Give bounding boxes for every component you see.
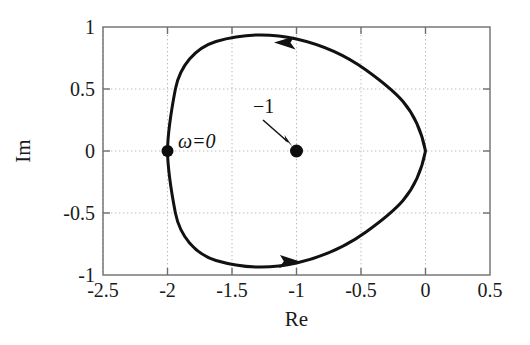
minus-one-annotation-label: −1 bbox=[253, 95, 274, 117]
y-tick-label-0: 0 bbox=[85, 140, 95, 162]
nyquist-plot-figure: -2.5 -2 -1.5 -1 -0.5 0 0.5 1 0.5 0 -0.5 … bbox=[0, 0, 530, 345]
y-tick-labels: 1 0.5 0 -0.5 -1 bbox=[63, 16, 95, 286]
x-tick-label-0: 0 bbox=[421, 279, 431, 301]
x-tick-labels: -2.5 -2 -1.5 -1 -0.5 0 0.5 bbox=[87, 279, 502, 301]
critical-point-marker-dot bbox=[290, 145, 303, 158]
x-tick-label--1: -1 bbox=[288, 279, 305, 301]
y-tick-label-0.5: 0.5 bbox=[70, 78, 95, 100]
y-axis-title: Im bbox=[11, 139, 35, 162]
x-tick-label--0.5: -0.5 bbox=[345, 279, 377, 301]
plot-canvas: -2.5 -2 -1.5 -1 -0.5 0 0.5 1 0.5 0 -0.5 … bbox=[0, 0, 530, 345]
x-tick-label-0.5: 0.5 bbox=[478, 279, 503, 301]
omega-zero-annotation-label: ω=0 bbox=[178, 130, 216, 152]
x-axis-title: Re bbox=[285, 307, 308, 331]
y-tick-label-1: 1 bbox=[85, 16, 95, 38]
x-tick-label--1.5: -1.5 bbox=[216, 279, 248, 301]
y-tick-label--0.5: -0.5 bbox=[63, 202, 95, 224]
omega-zero-marker-dot bbox=[162, 145, 174, 157]
x-tick-label--2: -2 bbox=[159, 279, 176, 301]
y-tick-label--1: -1 bbox=[78, 264, 95, 286]
